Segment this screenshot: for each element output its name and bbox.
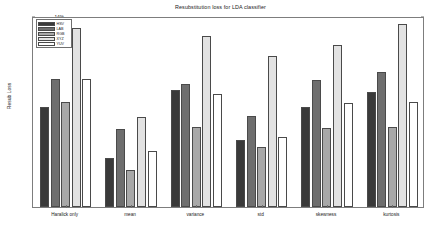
bar (409, 102, 418, 207)
bar (202, 36, 211, 207)
x-axis-tick-mark (131, 205, 132, 208)
bar (333, 45, 342, 207)
legend-item: RGB (38, 31, 70, 36)
bar (247, 116, 256, 207)
legend-item: HSV (38, 21, 70, 26)
x-axis-tick-label: std (258, 212, 264, 217)
bar (367, 92, 376, 207)
bar (398, 24, 407, 207)
chart-figure: Resubstitution loss for LDA classifier R… (0, 0, 441, 232)
bar (236, 140, 245, 207)
bar-group (164, 16, 229, 207)
chart-title: Resubstitution loss for LDA classifier (0, 4, 441, 10)
legend-label: LAB (57, 27, 64, 31)
bar-group (294, 16, 359, 207)
bar (137, 117, 146, 207)
legend-label: RGB (57, 32, 65, 36)
bar (312, 80, 321, 207)
x-axis-tick-label: mean (124, 212, 136, 217)
legend-label: YUV (57, 42, 65, 46)
bar (126, 170, 135, 207)
bar (51, 79, 60, 207)
x-axis-tick-label: skewness (316, 212, 337, 217)
bar (257, 147, 266, 207)
bar (344, 103, 353, 207)
bar (301, 107, 310, 207)
bar (171, 90, 180, 207)
legend-swatch (38, 32, 55, 36)
x-axis-tick-mark (327, 205, 328, 208)
bar-group (229, 16, 294, 207)
x-axis-tick-mark (196, 205, 197, 208)
bar (116, 129, 125, 207)
legend-label: HSV (57, 22, 65, 26)
x-axis-tick-label: Haralick only (51, 212, 78, 217)
bar (61, 102, 70, 207)
bar (322, 128, 331, 207)
bar (268, 56, 277, 207)
x-axis-tick-mark (262, 205, 263, 208)
legend-swatch (38, 27, 55, 31)
bar (82, 79, 91, 207)
y-axis-label: Resub Loss (6, 83, 12, 109)
bar (181, 84, 190, 207)
legend-swatch (38, 22, 55, 26)
bar (377, 72, 386, 207)
plot-area (32, 17, 424, 208)
bar (278, 137, 287, 207)
bar (105, 158, 114, 207)
bar (148, 151, 157, 207)
bar (213, 94, 222, 207)
bar (388, 127, 397, 207)
bar (72, 28, 81, 207)
bar-group (360, 16, 425, 207)
bar (40, 107, 49, 207)
x-axis-tick-label: kurtosis (383, 212, 399, 217)
legend-swatch (38, 37, 55, 41)
x-axis-tick-label: variance (186, 212, 204, 217)
chart-legend: HSVLABRGBXYZYUV (36, 19, 72, 48)
legend-item: YUV (38, 41, 70, 46)
legend-item: XYZ (38, 36, 70, 41)
legend-item: LAB (38, 26, 70, 31)
x-axis-tick-mark (66, 205, 67, 208)
bar (192, 127, 201, 207)
legend-swatch (38, 42, 55, 46)
legend-label: XYZ (57, 37, 64, 41)
x-axis-tick-mark (392, 205, 393, 208)
bar-group (98, 16, 163, 207)
